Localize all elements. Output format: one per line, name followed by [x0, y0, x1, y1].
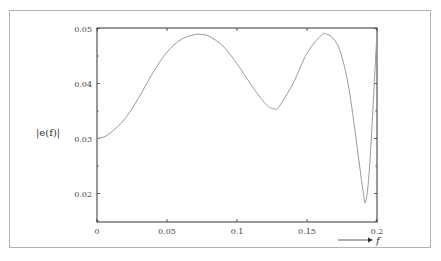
y-tick-label: 0.03 [74, 135, 92, 144]
x-tick-label: 0.15 [298, 227, 316, 236]
y-tick-labels: 0.020.030.040.05 [74, 25, 92, 199]
x-tick-label: 0.05 [158, 227, 176, 236]
line-chart: 00.050.10.150.2 0.020.030.040.05 |e(f)| … [0, 0, 441, 261]
axis-ticks [97, 28, 377, 222]
error-curve [97, 31, 377, 203]
plot-area [97, 28, 377, 222]
x-tick-label: 0.1 [231, 227, 244, 236]
x-axis-label: f [375, 235, 382, 246]
arrow-head-icon [368, 238, 373, 243]
y-tick-label: 0.04 [74, 80, 92, 89]
x-tick-labels: 00.050.10.150.2 [94, 227, 383, 236]
x-tick-label: 0 [94, 227, 99, 236]
y-axis-label: |e(f)| [36, 127, 60, 139]
x-axis-label-group: f [338, 235, 382, 246]
y-tick-label: 0.05 [74, 25, 92, 34]
y-tick-label: 0.02 [74, 190, 92, 199]
